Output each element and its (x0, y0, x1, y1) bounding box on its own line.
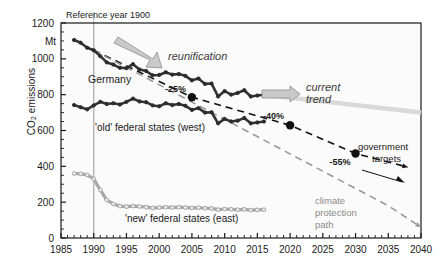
series-point (236, 91, 239, 94)
series-point (170, 206, 174, 210)
target-marker-label: -55% (330, 157, 351, 167)
series-label-germany: Germany (88, 73, 132, 85)
series-point (144, 69, 147, 72)
x-tick-label: 2040 (410, 244, 433, 255)
series-point (190, 108, 193, 111)
series-point (236, 119, 239, 122)
series-point (216, 122, 219, 125)
series-point (236, 208, 240, 212)
series-point (256, 121, 259, 124)
series-point (151, 206, 155, 210)
series-point (92, 104, 95, 107)
y-axis-unit-label: Mt (45, 36, 56, 47)
series-point (164, 205, 168, 209)
series-point (79, 106, 82, 109)
current-trend-label-line2: trend (306, 93, 332, 105)
series-point (85, 108, 88, 111)
series-point (190, 79, 193, 82)
reunification-label: reunification (168, 50, 227, 62)
x-tick-label: 2035 (377, 244, 400, 255)
series-point (171, 103, 174, 106)
series-point (249, 122, 252, 125)
series-point (118, 204, 122, 208)
series-point (216, 95, 219, 98)
series-point (183, 206, 187, 210)
series-point (255, 208, 259, 212)
series-point (131, 97, 134, 100)
series-point (131, 204, 135, 208)
series-label-west: 'old' federal states (west) (95, 122, 205, 133)
series-point (249, 95, 252, 98)
series-point (210, 111, 213, 114)
y-axis-label-suffix: emissions (26, 68, 37, 116)
series-point (203, 82, 206, 85)
series-point (151, 74, 154, 77)
series-point (242, 207, 246, 211)
series-point (72, 38, 75, 41)
series-point (144, 205, 148, 209)
series-point (157, 206, 161, 210)
y-tick-label: 800 (37, 89, 54, 100)
series-point (243, 88, 246, 91)
target-marker-label: -25% (165, 84, 186, 94)
series-point (131, 63, 134, 66)
series-point (249, 208, 253, 212)
series-point (72, 172, 76, 176)
figure-co2-emissions-germany: CO2 emissions 020040060080010001200 1985… (0, 0, 440, 272)
series-point (151, 104, 154, 107)
y-tick-label: 600 (37, 125, 54, 136)
x-tick-label: 2010 (214, 244, 237, 255)
series-point (223, 89, 226, 92)
series-point (72, 103, 75, 106)
series-point (125, 205, 129, 209)
series-point (229, 120, 232, 123)
y-tick-label: 1200 (32, 18, 55, 29)
series-point (138, 100, 141, 103)
series-point (229, 93, 232, 96)
climate-path-label-line3: path (315, 219, 334, 230)
series-point (125, 100, 128, 103)
series-point (79, 41, 82, 44)
series-point (164, 71, 167, 74)
target-marker-label: -40% (263, 111, 284, 121)
series-point (223, 117, 226, 120)
series-point (92, 49, 95, 52)
y-axis-label: CO2 emissions (26, 47, 37, 157)
series-point (105, 198, 109, 202)
series-point (125, 66, 128, 69)
series-point (190, 206, 194, 210)
series-point (144, 100, 147, 103)
series-point (229, 207, 233, 211)
series-point (99, 100, 102, 103)
series-point (203, 206, 207, 210)
series-point (85, 173, 89, 177)
climate-path-label-line2: protection (315, 207, 357, 218)
government-targets-label-line2: targets (372, 153, 401, 164)
series-point (177, 102, 180, 105)
series-point (105, 61, 108, 64)
series-point (262, 208, 266, 212)
series-point (112, 102, 115, 105)
series-point (223, 207, 227, 211)
series-point (177, 72, 180, 75)
x-tick-label: 2020 (279, 244, 302, 255)
y-tick-label: 400 (37, 161, 54, 172)
chart-canvas: 020040060080010001200 198519901995200020… (0, 0, 440, 272)
x-tick-label: 1990 (83, 244, 106, 255)
series-point (98, 188, 102, 192)
target-marker-40pct (286, 121, 294, 129)
x-tick-label: 2025 (312, 244, 335, 255)
x-tick-label: 2015 (246, 244, 269, 255)
x-tick-label: 2000 (148, 244, 171, 255)
series-point (177, 205, 181, 209)
series-point (118, 66, 121, 69)
series-point (184, 104, 187, 107)
series-point (138, 68, 141, 71)
y-tick-label: 0 (48, 233, 54, 244)
climate-path-label-line1: climate (315, 195, 345, 206)
series-point (197, 77, 200, 80)
series-point (184, 74, 187, 77)
series-point (210, 82, 213, 85)
series-point (171, 73, 174, 76)
series-point (85, 46, 88, 49)
